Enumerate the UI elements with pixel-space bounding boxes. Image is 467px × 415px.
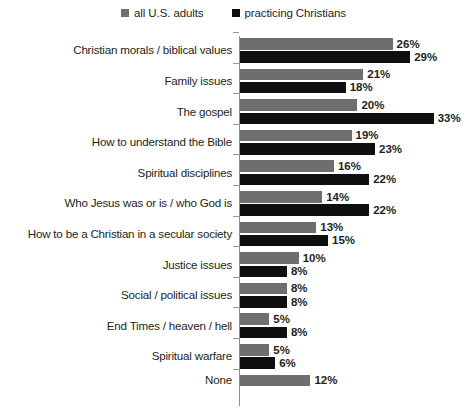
category-label: Family issues (0, 75, 232, 87)
bar-all-u-s-adults (240, 130, 352, 142)
bar-value-label: 5% (273, 345, 290, 357)
axis-tick (233, 216, 239, 217)
legend-label-practicing-christians: practicing Christians (245, 7, 346, 19)
bar-all-u-s-adults (240, 38, 393, 50)
legend-entry-practicing-christians: practicing Christians (232, 7, 346, 19)
bar-value-label: 13% (320, 222, 343, 234)
category-label: Justice issues (0, 259, 232, 271)
bar-value-label: 22% (373, 205, 396, 217)
bar-all-u-s-adults (240, 69, 363, 81)
category-label: The gospel (0, 106, 232, 118)
axis-tick (233, 185, 239, 186)
category-label: Spiritual disciplines (0, 167, 232, 179)
bar-practicing-christians (240, 266, 287, 278)
bar-practicing-christians (240, 296, 287, 308)
bar-value-label: 8% (291, 283, 308, 295)
bar-all-u-s-adults (240, 160, 334, 172)
bar-value-label: 14% (326, 192, 349, 204)
category-label: End Times / heaven / hell (0, 320, 232, 332)
category-label: Social / political issues (0, 289, 232, 301)
legend-entry-all-us-adults: all U.S. adults (121, 7, 203, 19)
bar-all-u-s-adults (240, 313, 269, 325)
bar-value-label: 8% (291, 297, 308, 309)
axis-tick (233, 93, 239, 94)
axis-tick (233, 246, 239, 247)
bar-all-u-s-adults (240, 191, 322, 203)
category-label: Christian morals / biblical values (0, 44, 232, 56)
bar-practicing-christians (240, 82, 346, 94)
bar-practicing-christians (240, 327, 287, 339)
bar-value-label: 19% (356, 130, 379, 142)
bar-value-label: 6% (279, 358, 296, 370)
bar-chart-plot: Christian morals / biblical values26%29%… (0, 30, 467, 413)
bar-value-label: 8% (291, 327, 308, 339)
bar-all-u-s-adults (240, 222, 316, 234)
bar-practicing-christians (240, 174, 369, 186)
axis-tick (233, 124, 239, 125)
bar-practicing-christians (240, 143, 375, 155)
legend-label-all-us-adults: all U.S. adults (134, 7, 203, 19)
bar-all-u-s-adults (240, 344, 269, 356)
bar-value-label: 15% (332, 235, 355, 247)
category-label: How to understand the Bible (0, 136, 232, 148)
bar-value-label: 18% (350, 82, 373, 94)
bar-practicing-christians (240, 51, 410, 63)
bar-practicing-christians (240, 357, 275, 369)
bar-value-label: 16% (338, 161, 361, 173)
bar-practicing-christians (240, 204, 369, 216)
bar-value-label: 8% (291, 266, 308, 278)
bar-value-label: 29% (414, 52, 437, 64)
axis-tick (233, 277, 239, 278)
legend-swatch-icon-practicing-christians (232, 9, 240, 17)
bar-value-label: 5% (273, 314, 290, 326)
bar-value-label: 22% (373, 174, 396, 186)
category-label: None (0, 374, 232, 386)
bar-value-label: 20% (361, 100, 384, 112)
axis-tick (233, 369, 239, 370)
bar-all-u-s-adults (240, 99, 357, 111)
chart-legend: all U.S. adults practicing Christians (0, 2, 467, 24)
bar-value-label: 10% (303, 253, 326, 265)
bar-all-u-s-adults (240, 252, 299, 264)
bar-value-label: 12% (314, 375, 337, 387)
bar-all-u-s-adults (240, 283, 287, 295)
bar-value-label: 23% (379, 144, 402, 156)
axis-tick (233, 338, 239, 339)
axis-tick (233, 63, 239, 64)
axis-tick (233, 307, 239, 308)
bar-value-label: 21% (367, 69, 390, 81)
category-label: Who Jesus was or is / who God is (0, 197, 232, 209)
axis-tick (233, 32, 239, 33)
axis-tick (233, 154, 239, 155)
bar-value-label: 26% (397, 39, 420, 51)
bar-practicing-christians (240, 235, 328, 247)
category-label: How to be a Christian in a secular socie… (0, 228, 232, 240)
bar-practicing-christians (240, 113, 434, 125)
bar-value-label: 33% (438, 113, 461, 125)
legend-swatch-icon-all-us-adults (121, 9, 129, 17)
bar-all-u-s-adults (240, 375, 310, 387)
category-label: Spiritual warfare (0, 350, 232, 362)
